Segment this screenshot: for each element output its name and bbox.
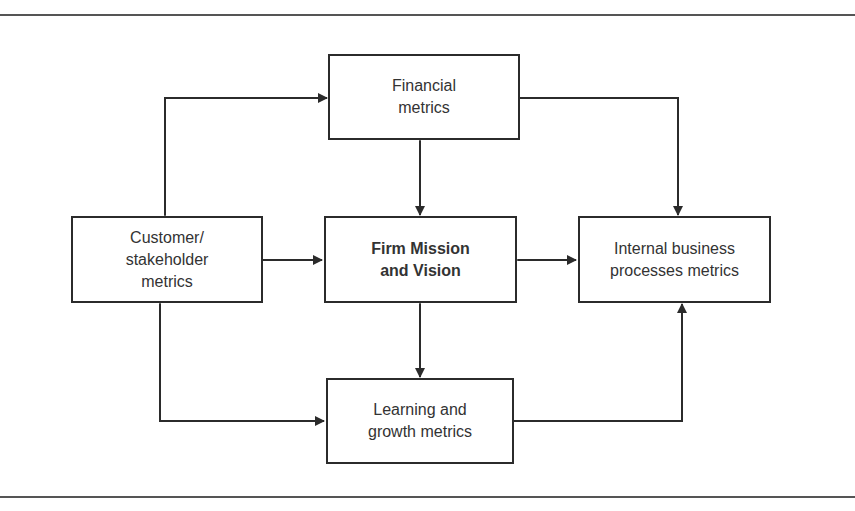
node-internal-business-processes-metrics: Internal business processes metrics bbox=[578, 216, 771, 303]
node-label: Firm Mission and Vision bbox=[371, 238, 470, 282]
edge-internal-learning bbox=[514, 304, 682, 421]
edge-customer-financial bbox=[165, 98, 327, 215]
node-label: Financial metrics bbox=[392, 75, 456, 119]
node-learning-growth-metrics: Learning and growth metrics bbox=[326, 378, 514, 464]
node-firm-mission-vision: Firm Mission and Vision bbox=[324, 216, 517, 303]
edge-financial-internal bbox=[520, 98, 678, 215]
node-label: Learning and growth metrics bbox=[368, 399, 472, 443]
node-label: Customer/ stakeholder metrics bbox=[126, 227, 209, 293]
node-customer-stakeholder-metrics: Customer/ stakeholder metrics bbox=[71, 216, 263, 303]
node-label: Internal business processes metrics bbox=[610, 238, 739, 282]
node-financial-metrics: Financial metrics bbox=[328, 54, 520, 140]
edge-customer-learning bbox=[160, 304, 324, 421]
